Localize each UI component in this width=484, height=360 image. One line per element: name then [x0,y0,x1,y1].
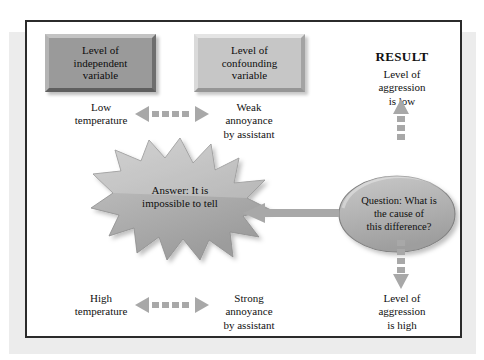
question-line1: Question: What is [345,194,453,207]
dashed-up-arrow-result-low [388,99,414,143]
answer-starburst: Answer: It is impossible to tell [87,136,273,262]
dashed-double-arrow-icon [135,294,209,316]
strong-annoyance-label: Strong annoyance by assistant [193,292,305,332]
page-shadow-left [9,32,26,354]
strong-annoyance-line2: annoyance [193,305,305,318]
independent-variable-line1: Level of [74,44,128,57]
dashed-double-arrow-bottom [135,294,209,316]
dashed-double-arrow-top [135,103,209,125]
aggression-high-line3: is high [343,319,461,332]
result-heading: RESULT [343,49,461,65]
weak-annoyance-line2: annoyance [193,114,305,127]
diagram-canvas: Level of independent variable Level of c… [27,22,460,336]
strong-annoyance-line1: Strong [193,292,305,305]
aggression-high-line1: Level of [343,292,461,305]
diagram-frame: Level of independent variable Level of c… [25,20,462,338]
aggression-low-line1: Level of [343,68,461,81]
confounding-variable-box: Level of confounding variable [194,34,305,92]
dashed-down-arrow-result-high [388,238,414,290]
confounding-variable-line3: variable [222,69,278,82]
answer-line1: Answer: It is [87,184,273,197]
dashed-double-arrow-icon [135,103,209,125]
page-shadow-bottom [9,337,471,354]
answer-starburst-text: Answer: It is impossible to tell [87,184,273,211]
page-shadow-right [462,32,476,354]
independent-variable-line3: variable [74,69,128,82]
independent-variable-box: Level of independent variable [45,34,156,92]
strong-annoyance-line3: by assistant [193,319,305,332]
aggression-high-line2: aggression [343,305,461,318]
confounding-variable-line1: Level of [222,44,278,57]
answer-line2: impossible to tell [87,197,273,210]
dashed-up-arrow-icon [388,99,414,143]
confounding-variable-line2: confounding [222,57,278,70]
independent-variable-line2: independent [74,57,128,70]
weak-annoyance-line1: Weak [193,101,305,114]
dashed-down-arrow-icon [388,238,414,290]
question-line3: this difference? [345,220,453,233]
figure-page: Level of independent variable Level of c… [0,0,484,360]
aggression-low-line2: aggression [343,81,461,94]
aggression-high-label: Level of aggression is high [343,292,461,332]
question-line2: the cause of [345,207,453,220]
question-ellipse-text: Question: What is the cause of this diff… [345,194,453,233]
